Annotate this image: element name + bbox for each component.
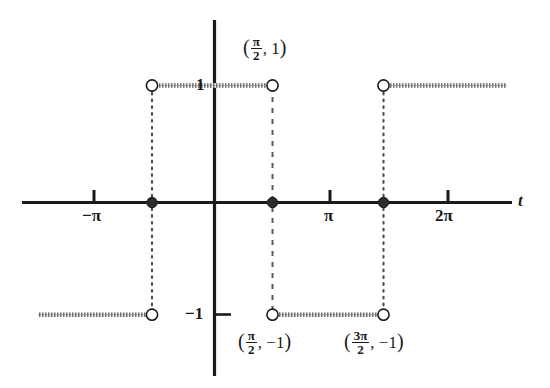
annotation-close-paren: ) bbox=[280, 36, 287, 58]
open-circle-upper-left-end bbox=[267, 80, 278, 91]
annotation-fraction: 3π2 bbox=[352, 329, 370, 357]
y-tick-label-one: 1 bbox=[196, 76, 205, 93]
axis-dot-minus-half-pi bbox=[147, 197, 157, 207]
function-segment-upper-left bbox=[154, 83, 270, 88]
open-circle-left-low-end bbox=[146, 309, 157, 320]
fraction-numerator: π bbox=[251, 35, 262, 49]
function-graph-figure: −π π 2π 1 −1 t (π2, 1) (π2, −1) (3π2, −1… bbox=[0, 0, 550, 388]
open-circle-middle-low-end bbox=[378, 309, 389, 320]
annotation-value: −1 bbox=[266, 333, 284, 352]
annotation-three-half-pi-minus-one: (3π2, −1) bbox=[344, 330, 404, 358]
annotation-value: 1 bbox=[271, 39, 280, 58]
annotation-separator: , bbox=[370, 333, 379, 352]
open-circle-upper-right-start bbox=[378, 80, 389, 91]
fraction-denominator: 2 bbox=[246, 343, 257, 356]
annotation-close-paren: ) bbox=[397, 330, 404, 352]
function-segment-left-low bbox=[38, 312, 150, 317]
annotation-fraction: π2 bbox=[251, 35, 262, 63]
axis-dot-three-half-pi bbox=[378, 197, 388, 207]
open-circle-middle-low-start bbox=[267, 309, 278, 320]
x-tick-label-minus-pi: −π bbox=[82, 207, 101, 224]
x-tick-label-two-pi: 2π bbox=[435, 207, 453, 224]
fraction-numerator: π bbox=[246, 329, 257, 343]
function-segment-middle-low bbox=[276, 312, 381, 317]
annotation-value: −1 bbox=[379, 333, 397, 352]
annotation-open-paren: ( bbox=[238, 330, 245, 352]
annotation-half-pi-one: (π2, 1) bbox=[243, 36, 286, 64]
y-tick-label-minus-one: −1 bbox=[185, 305, 203, 322]
fraction-numerator: 3π bbox=[352, 329, 370, 343]
x-axis-name-label: t bbox=[518, 192, 523, 209]
annotation-half-pi-minus-one: (π2, −1) bbox=[238, 330, 291, 358]
annotation-close-paren: ) bbox=[284, 330, 291, 352]
fraction-denominator: 2 bbox=[251, 49, 262, 62]
open-circle-upper-left-start bbox=[146, 80, 157, 91]
annotation-fraction: π2 bbox=[246, 329, 257, 357]
fraction-denominator: 2 bbox=[355, 343, 366, 356]
axis-dot-half-pi bbox=[267, 197, 277, 207]
function-segment-upper-right bbox=[387, 83, 507, 88]
annotation-open-paren: ( bbox=[243, 36, 250, 58]
x-tick-label-pi: π bbox=[324, 207, 333, 224]
annotation-open-paren: ( bbox=[344, 330, 351, 352]
